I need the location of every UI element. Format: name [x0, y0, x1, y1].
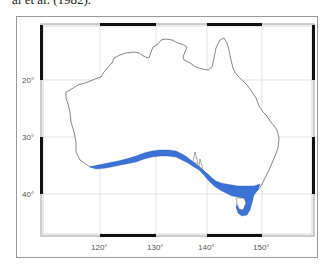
- lat-label-40: 40°: [22, 190, 34, 199]
- lon-label-150: 150°: [253, 243, 270, 252]
- australia-map: [0, 0, 331, 270]
- lat-label-30: 30°: [22, 133, 34, 142]
- lon-label-120: 120°: [91, 243, 108, 252]
- lat-label-20: 20°: [22, 76, 34, 85]
- lon-label-130: 130°: [147, 243, 164, 252]
- lon-label-140: 140°: [198, 243, 215, 252]
